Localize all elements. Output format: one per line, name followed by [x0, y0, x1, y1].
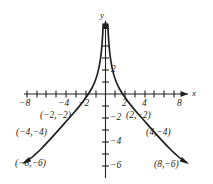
point-label-neg8-neg6: (−8,−6): [15, 159, 46, 169]
point-label-neg2-neg2: (−2,−2): [40, 111, 71, 121]
point-label-2-neg2: (2,−2): [126, 111, 151, 121]
x-tick-label-neg4: −4: [58, 99, 69, 109]
x-axis-arrowhead: [181, 91, 189, 97]
x-tick-label-2: 2: [122, 99, 127, 109]
point-label-4-neg4: (4,−4): [146, 128, 171, 138]
y-tick-label-neg4: −4: [110, 137, 121, 147]
x-tick-label-neg8: −8: [19, 99, 30, 109]
x-tick-label-neg2: −2: [78, 99, 89, 109]
x-tick-label-4: 4: [142, 99, 147, 109]
y-tick-label-2: 2: [111, 65, 116, 75]
y-axis: [102, 20, 109, 178]
point-label-neg4-neg4: (−4,−4): [16, 128, 47, 138]
x-axis-label: x: [192, 89, 196, 98]
y-tick-label-neg2: −2: [110, 113, 121, 123]
point-label-8-neg6: (8,−6): [154, 160, 179, 170]
x-tick-label-8: 8: [177, 99, 182, 109]
coordinate-plane: [0, 0, 213, 184]
graph-figure: −8 −4 −2 2 4 8 2 −2 −4 −6 x y (−2,−2) (−…: [0, 0, 213, 184]
y-axis-label: y: [100, 11, 104, 20]
y-tick-label-neg6: −6: [110, 161, 121, 171]
